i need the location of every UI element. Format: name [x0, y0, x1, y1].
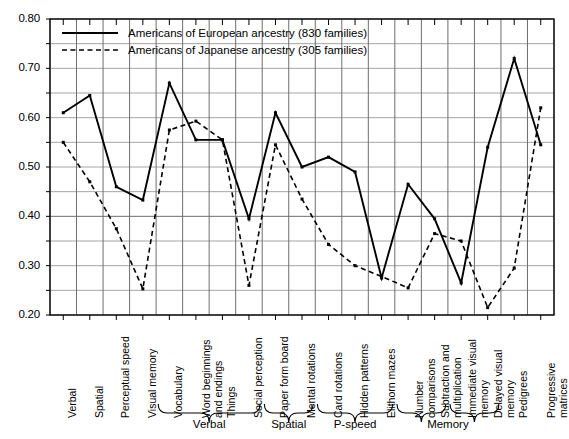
data-point [62, 141, 65, 144]
data-point [301, 166, 304, 169]
x-axis-tick-label: Visual memory [147, 322, 159, 418]
data-point [327, 243, 330, 246]
data-point [407, 286, 410, 289]
data-point [247, 217, 250, 220]
data-line-japanese [63, 108, 540, 308]
x-axis-tick-label: Hidden patterns [359, 322, 371, 418]
x-axis-tick-label: Delayed visualmemory [493, 322, 516, 418]
data-point [433, 232, 436, 235]
data-point [141, 287, 144, 290]
data-point [460, 281, 463, 284]
group-label: Memory [404, 418, 492, 430]
group-label: Verbal [165, 418, 253, 430]
data-point [168, 129, 171, 132]
x-axis-tick-label: Numbercomparisons [414, 322, 437, 418]
data-point [486, 306, 489, 309]
data-point [301, 198, 304, 201]
x-axis-tick-label: Word beginningsand endings [201, 322, 224, 418]
x-axis-tick-label: Vocabulary [173, 322, 185, 418]
data-line-european [63, 58, 540, 282]
x-axis-tick-label: Spatial [94, 322, 106, 418]
data-point [513, 57, 516, 60]
data-point [141, 199, 144, 202]
data-point [433, 217, 436, 220]
data-point [88, 180, 91, 183]
legend-label-european: Americans of European ancestry (830 fami… [128, 27, 367, 39]
x-axis-tick-label: Card rotations [333, 322, 345, 418]
data-point [88, 94, 91, 97]
data-point [486, 146, 489, 149]
group-label: P-speed [311, 418, 399, 430]
data-point [354, 170, 357, 173]
x-axis-tick-label: Elithorn mazes [386, 322, 398, 418]
data-point [460, 240, 463, 243]
x-axis-tick-label: Progressivematrices [546, 322, 569, 418]
data-point [513, 267, 516, 270]
x-axis-tick-label: Social perception [253, 322, 265, 418]
data-point [194, 120, 197, 123]
x-axis-tick-label: Immediate visualmemory [467, 322, 490, 418]
data-point [539, 143, 542, 146]
x-axis-tick-label: Perceptual speed [120, 322, 132, 418]
data-point [539, 106, 542, 109]
data-point [221, 138, 224, 141]
legend-label-japanese: Americans of Japanese ancestry (305 fami… [128, 44, 367, 56]
data-point [194, 138, 197, 141]
x-axis-ticks [63, 19, 540, 320]
x-axis-tick-label: Pedigrees [518, 322, 530, 418]
data-point [62, 111, 65, 114]
data-point [354, 264, 357, 267]
x-axis-tick-label: Things [226, 322, 238, 418]
x-axis-tick-label: Subtraction andmultiplication [440, 322, 463, 418]
x-axis-tick-label: Paper form board [279, 322, 291, 418]
data-point [274, 111, 277, 114]
data-point [380, 275, 383, 278]
data-point [168, 82, 171, 85]
data-point [407, 183, 410, 186]
x-axis-tick-label: Verbal [67, 322, 79, 418]
legend: Americans of European ancestry (830 fami… [62, 27, 367, 56]
data-point [115, 185, 118, 188]
data-point [327, 156, 330, 159]
data-point [274, 143, 277, 146]
data-point [247, 284, 250, 287]
x-axis-tick-label: Mental rotations [306, 322, 318, 418]
data-point [115, 227, 118, 230]
